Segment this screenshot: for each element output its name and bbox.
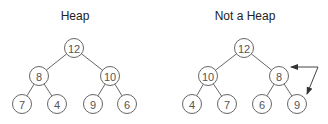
svg-text:12: 12 <box>238 43 250 55</box>
svg-text:7: 7 <box>19 99 25 111</box>
svg-text:7: 7 <box>224 99 230 111</box>
tree-edge <box>197 84 204 96</box>
tree-edge <box>115 84 122 96</box>
tree-node: 10 <box>101 67 120 86</box>
tree-edge <box>98 84 105 96</box>
svg-text:12: 12 <box>68 43 80 55</box>
svg-text:8: 8 <box>276 71 282 83</box>
svg-text:6: 6 <box>259 99 265 111</box>
tree-node: 6 <box>253 95 272 114</box>
tree-node: 7 <box>218 95 237 114</box>
tree-node: 8 <box>30 67 49 86</box>
tree-node: 12 <box>235 39 254 58</box>
tree-node: 10 <box>199 67 218 86</box>
tree-node: 4 <box>48 95 67 114</box>
tree-edge <box>213 84 221 96</box>
tree-edge <box>44 84 52 96</box>
svg-text:10: 10 <box>202 71 214 83</box>
tree-edge <box>284 84 292 96</box>
tree-node: 4 <box>183 95 202 114</box>
tree-node: 12 <box>65 39 84 58</box>
tree-edge <box>267 84 274 96</box>
tree-edge <box>27 84 34 96</box>
heap-diagrams: 128107496121084769 <box>0 0 328 124</box>
svg-text:4: 4 <box>189 99 195 111</box>
tree-node: 8 <box>270 67 289 86</box>
tree-node: 9 <box>288 95 307 114</box>
svg-text:10: 10 <box>104 71 116 83</box>
tree-edge <box>46 54 66 70</box>
tree-edge <box>251 54 271 70</box>
svg-text:6: 6 <box>124 99 130 111</box>
tree-node: 7 <box>13 95 32 114</box>
tree-node: 9 <box>84 95 103 114</box>
tree-node: 6 <box>118 95 137 114</box>
svg-text:8: 8 <box>36 71 42 83</box>
tree-edge <box>215 54 236 70</box>
svg-text:4: 4 <box>54 99 60 111</box>
tree-edge <box>81 54 102 70</box>
svg-text:9: 9 <box>90 99 96 111</box>
svg-text:9: 9 <box>294 99 300 111</box>
swap-arrow <box>291 67 318 94</box>
